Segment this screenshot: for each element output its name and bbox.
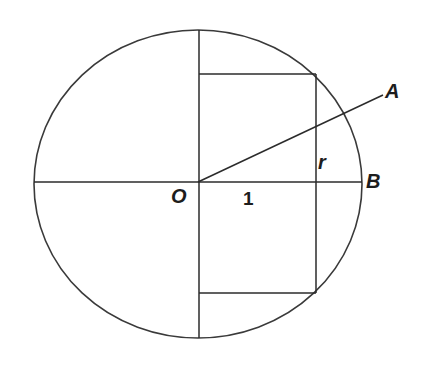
label-point-b: B	[366, 171, 380, 191]
geometry-canvas	[0, 0, 424, 366]
geometry-figure: O 1 r A B	[0, 0, 424, 366]
main-circle	[34, 30, 362, 338]
label-point-a: A	[385, 81, 399, 101]
label-radius-r: r	[318, 152, 326, 172]
label-unit-length: 1	[243, 189, 254, 208]
label-center-o: O	[171, 186, 187, 206]
